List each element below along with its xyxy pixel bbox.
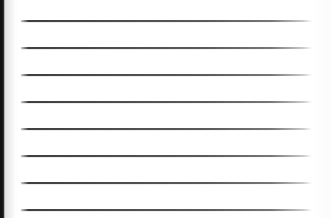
- ruled-lines-layer: [0, 0, 331, 218]
- ruled-line-halo: [21, 103, 312, 105]
- ruled-line-halo: [21, 76, 312, 78]
- ruled-line-halo: [21, 49, 312, 51]
- scanned-page: [0, 0, 331, 218]
- ruled-line: [21, 128, 312, 130]
- ruled-line-halo: [21, 130, 312, 132]
- ruled-line: [21, 47, 312, 49]
- ruled-line-halo: [21, 184, 312, 186]
- ruled-line: [21, 182, 312, 184]
- ruled-line: [21, 20, 312, 22]
- ruled-line-halo: [21, 211, 312, 213]
- ruled-line: [21, 101, 312, 103]
- ruled-line-halo: [21, 157, 312, 159]
- ruled-line-halo: [21, 22, 312, 24]
- ruled-line: [21, 209, 312, 211]
- ruled-line: [21, 155, 312, 157]
- ruled-line: [21, 74, 312, 76]
